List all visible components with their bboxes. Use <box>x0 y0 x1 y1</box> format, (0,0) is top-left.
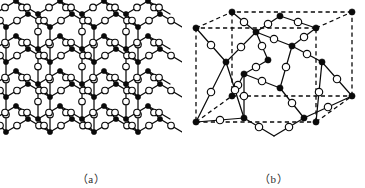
atom-open <box>285 123 292 130</box>
atom-filled <box>123 11 128 16</box>
atom-filled <box>79 11 84 16</box>
cell-bond <box>196 16 280 122</box>
atom-filled <box>57 68 62 73</box>
atom-open <box>231 86 238 93</box>
atom-open <box>24 4 31 11</box>
atom-filled <box>265 57 271 63</box>
atom-open <box>168 122 175 129</box>
atom-open <box>288 99 295 106</box>
atom-open <box>270 35 277 42</box>
atom-open <box>79 63 86 70</box>
atom-filled <box>157 11 162 16</box>
atom-filled <box>3 129 8 134</box>
atom-filled <box>47 94 52 99</box>
atom-filled <box>229 9 235 15</box>
atom-open <box>129 87 136 94</box>
atom-filled <box>135 129 140 134</box>
atom-open <box>14 52 21 59</box>
atom-filled <box>79 81 84 86</box>
atom-open <box>168 52 175 59</box>
atom-filled <box>313 119 319 125</box>
atom-filled <box>79 46 84 51</box>
atom-filled <box>135 24 140 29</box>
atom-open <box>90 4 97 11</box>
atom-open <box>123 28 130 35</box>
atom-open <box>129 122 136 129</box>
unit-cell-diagram <box>182 0 365 168</box>
atom-open <box>102 87 109 94</box>
atom-filled <box>193 119 199 125</box>
atom-filled <box>101 103 106 108</box>
atom-filled <box>3 24 8 29</box>
atom-filled <box>241 115 247 121</box>
atom-filled <box>3 94 8 99</box>
atom-open <box>46 4 53 11</box>
atom-filled <box>57 0 62 4</box>
atom-filled <box>25 11 30 16</box>
atom-filled <box>35 11 40 16</box>
atom-open <box>168 87 175 94</box>
atom-open <box>129 17 136 24</box>
atom-open <box>14 17 21 24</box>
atom-filled <box>145 68 150 73</box>
atom-open <box>46 109 53 116</box>
lattice-network-diagram <box>0 0 182 168</box>
atom-open <box>146 52 153 59</box>
atom-open <box>90 39 97 46</box>
atom-open <box>240 92 247 99</box>
atom-filled <box>123 116 128 121</box>
atom-open <box>216 116 223 123</box>
atom-filled <box>79 116 84 121</box>
atom-filled <box>145 33 150 38</box>
atom-filled <box>277 85 283 91</box>
atom-filled <box>229 93 235 99</box>
atom-open <box>258 42 265 49</box>
atom-filled <box>3 59 8 64</box>
atom-open <box>207 41 214 48</box>
atom-open <box>112 4 119 11</box>
atom-open <box>112 39 119 46</box>
atom-open <box>79 98 86 105</box>
atom-filled <box>57 33 62 38</box>
atom-open <box>264 20 271 27</box>
atom-filled <box>145 0 150 4</box>
atom-open <box>255 123 262 130</box>
atom-filled <box>91 94 96 99</box>
atom-filled <box>13 0 18 4</box>
atom-open <box>294 18 301 25</box>
atom-open <box>2 4 9 11</box>
atom-open <box>303 50 310 57</box>
atom-open <box>2 74 9 81</box>
atom-filled <box>157 46 162 51</box>
atom-open <box>102 52 109 59</box>
atom-filled <box>13 103 18 108</box>
atom-open <box>156 39 163 46</box>
atom-filled <box>35 81 40 86</box>
atom-filled <box>47 24 52 29</box>
panel-a-caption: （a） <box>0 172 182 186</box>
atom-open <box>282 63 289 70</box>
atom-open <box>0 122 3 129</box>
atom-filled <box>313 25 319 31</box>
atom-open <box>35 28 42 35</box>
atom-open <box>324 103 331 110</box>
figure-panel-a: （a） <box>0 0 182 188</box>
atom-open <box>156 74 163 81</box>
atom-filled <box>349 93 355 99</box>
atom-open <box>0 52 3 59</box>
atom-open <box>2 39 9 46</box>
atom-open <box>68 109 75 116</box>
atom-open <box>146 122 153 129</box>
atom-filled <box>277 13 283 19</box>
atom-open <box>90 109 97 116</box>
atom-open <box>112 109 119 116</box>
atom-open <box>134 74 141 81</box>
atom-filled <box>101 0 106 4</box>
atom-filled <box>91 129 96 134</box>
atom-open <box>46 74 53 81</box>
atom-open <box>207 88 214 95</box>
atom-filled <box>319 59 325 65</box>
atom-open <box>35 63 42 70</box>
atom-open <box>102 122 109 129</box>
atom-open <box>35 98 42 105</box>
